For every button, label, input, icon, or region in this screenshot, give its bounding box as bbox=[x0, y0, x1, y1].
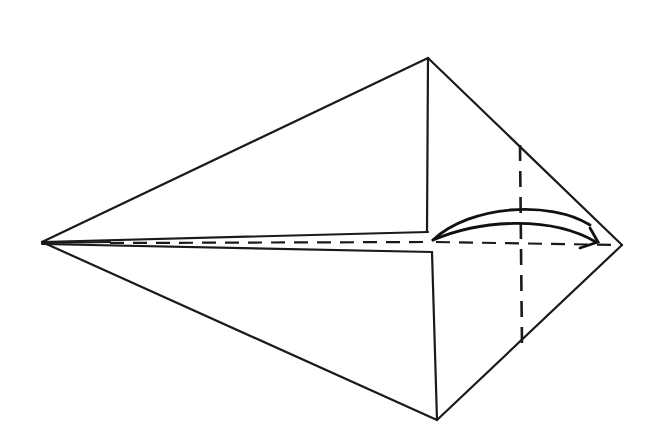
valley-fold-line bbox=[520, 145, 522, 347]
outline-upper-left-edge bbox=[42, 58, 428, 242]
diagram-canvas bbox=[0, 0, 659, 442]
center-vertical-upper bbox=[427, 58, 428, 232]
flap-lower-edge bbox=[42, 244, 432, 252]
flap-inner-left bbox=[44, 242, 110, 243]
center-vertical-lower bbox=[432, 252, 437, 420]
flap-upper-edge bbox=[42, 232, 428, 242]
outline-upper-right-edge bbox=[428, 58, 622, 245]
fold-arrow-inner-arc bbox=[433, 223, 596, 242]
outline-lower-left-edge bbox=[42, 242, 437, 420]
horizontal-dashed-line-left bbox=[110, 242, 428, 243]
outline-lower-right-edge bbox=[437, 245, 622, 420]
origami-diagram bbox=[0, 0, 659, 442]
